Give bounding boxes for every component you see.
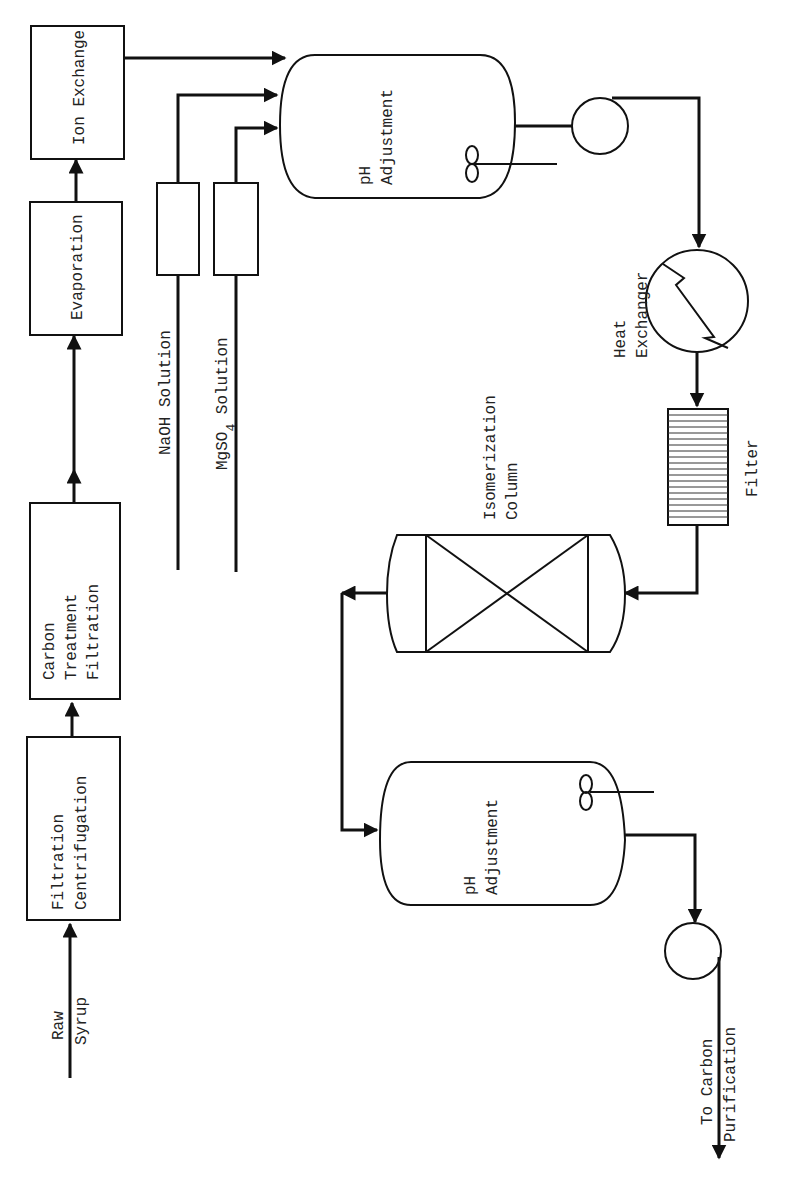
block-label: Ion Exchange xyxy=(71,30,89,145)
vessel-label: Adjustment xyxy=(379,89,397,185)
vessel-label: Isomerization xyxy=(482,395,500,520)
vessel-label: Filter xyxy=(744,439,762,497)
block-label: Carbon xyxy=(41,622,59,680)
filtration-centrifugation-block: Filtration Centrifugation xyxy=(27,737,120,920)
pump-1 xyxy=(572,98,628,154)
block-label: Treatment xyxy=(63,594,81,680)
vessel-label: Adjustment xyxy=(484,799,502,895)
carbon-treatment-block: Carbon Treatment Filtration xyxy=(30,503,120,699)
pump-2 xyxy=(665,923,721,979)
process-flow-diagram: Raw Syrup Filtration Centrifugation Carb… xyxy=(0,0,791,1190)
isomerization-column: Isomerization Column xyxy=(387,395,625,652)
vessel-label: Column xyxy=(504,462,522,520)
vessel-label: Heat xyxy=(612,320,630,358)
flow-arrow xyxy=(624,835,695,922)
evaporation-block: Evaporation xyxy=(30,202,122,335)
vessel-label: pH xyxy=(462,876,480,895)
raw-syrup-input: Raw Syrup xyxy=(50,924,91,1078)
flow-arrow xyxy=(342,593,377,830)
vessel-label: pH xyxy=(357,166,375,185)
output-text: Purification xyxy=(722,1027,740,1142)
raw-label: Raw xyxy=(50,1011,68,1040)
naoh-pump xyxy=(157,183,199,275)
syrup-label: Syrup xyxy=(73,997,91,1045)
heat-exchanger: Heat Exchanger xyxy=(612,250,748,358)
vessel-label: Exchanger xyxy=(634,272,652,358)
block-label: Filtration xyxy=(85,584,103,680)
ph-adjustment-tank-2: pH Adjustment xyxy=(380,762,654,905)
block-label: Evaporation xyxy=(69,214,87,320)
mgso4-feed: MgSO4 Solution xyxy=(214,128,277,572)
naoh-feed: NaOH Solution xyxy=(157,95,277,570)
output-text: To Carbon xyxy=(699,1039,717,1125)
block-label: Filtration xyxy=(50,814,68,910)
filter: Filter xyxy=(668,409,762,525)
naoh-label: NaOH Solution xyxy=(157,330,175,455)
mgso4-pump xyxy=(214,183,258,275)
block-label: Centrifugation xyxy=(73,776,91,910)
ion-exchange-block: Ion Exchange xyxy=(31,26,124,159)
flow-arrow xyxy=(625,525,697,593)
